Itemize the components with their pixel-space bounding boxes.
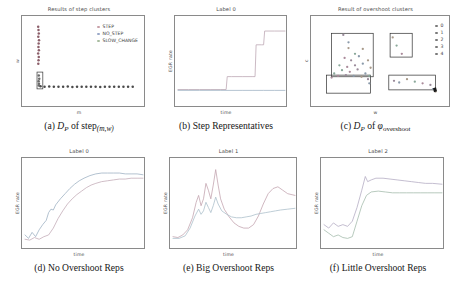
scatter-point	[38, 84, 41, 87]
scatter-point	[343, 57, 345, 59]
scatter-point	[421, 82, 423, 84]
legend-item-1[interactable]: NO_STEP	[97, 31, 138, 37]
scatter-point	[346, 66, 348, 68]
scatter-point	[90, 85, 93, 88]
panel-a-caption-mid: of step	[68, 120, 96, 131]
scatter-point	[349, 59, 351, 61]
legend-item-0[interactable]: 0	[435, 23, 444, 29]
scatter-point	[400, 53, 402, 55]
panel-e-plot: Label 1 EGR rate time	[161, 148, 297, 258]
legend-swatch-icon	[97, 33, 100, 36]
scatter-point	[37, 59, 40, 62]
panel-c-legend: 01234	[435, 23, 444, 57]
scatter-point	[330, 76, 332, 78]
legend-item-2[interactable]: 2	[435, 37, 444, 43]
scatter-point	[395, 44, 397, 46]
scatter-point	[71, 86, 74, 89]
scatter-point	[347, 47, 349, 49]
panel-c-caption-cal: D	[354, 120, 361, 131]
scatter-point	[333, 72, 335, 74]
panel-e-frame	[169, 157, 297, 249]
legend-item-0[interactable]: STEP	[97, 24, 138, 30]
panel-e-ylabel: EGR rate	[161, 157, 169, 249]
legend-swatch-icon	[435, 53, 438, 56]
scatter-point	[429, 84, 431, 86]
scatter-point	[38, 32, 41, 35]
panel-d-caption-prefix: (d)	[34, 262, 45, 273]
panel-b-xlabel: time	[166, 109, 287, 116]
scatter-point	[104, 85, 107, 88]
panel-f-frame	[320, 157, 444, 249]
panel-c-ylabel: c	[302, 15, 310, 107]
panel-e: Label 1 EGR rate time (e) Big Overshoot …	[155, 148, 303, 273]
scatter-point	[413, 81, 415, 83]
scatter-point	[118, 85, 121, 88]
legend-label: 1	[441, 30, 444, 36]
scatter-point	[344, 74, 346, 76]
scatter-point	[348, 71, 350, 73]
panel-b-axes: EGR rate	[166, 15, 287, 107]
scatter-point	[368, 75, 370, 77]
panel-a-ylabel: w	[13, 15, 21, 107]
scatter-point	[37, 25, 40, 28]
legend-label: SLOW_CHANGE	[103, 38, 138, 44]
scatter-point	[369, 67, 371, 69]
panel-c: Result of overshoot clusters c 01234 w (…	[298, 6, 453, 133]
legend-item-1[interactable]: 1	[435, 30, 444, 36]
series-line-0	[173, 170, 295, 238]
scatter-point	[38, 39, 41, 42]
scatter-point	[336, 75, 338, 77]
panel-b-caption: (b) Step Representatives	[179, 120, 273, 131]
scatter-point	[347, 41, 349, 43]
legend-item-2[interactable]: SLOW_CHANGE	[97, 38, 138, 44]
panel-a-xlabel: m	[13, 109, 145, 116]
scatter-point	[37, 46, 40, 49]
panel-f-title: Label 2	[312, 148, 444, 155]
panel-c-caption-prefix: (c)	[341, 120, 352, 131]
scatter-point	[38, 56, 41, 59]
panel-f-plot: Label 2 EGR rate time	[312, 148, 444, 258]
scatter-point	[361, 62, 363, 64]
scatter-point	[338, 64, 340, 66]
scatter-point	[360, 76, 362, 78]
cluster-box-1	[326, 75, 370, 93]
panel-d-ylabel: EGR rate	[13, 157, 21, 249]
scatter-point	[37, 52, 40, 55]
legend-item-3[interactable]: 3	[435, 44, 444, 50]
scatter-point	[366, 78, 368, 80]
panel-a: Results of step clusters w STEPNO_STEPSL…	[4, 6, 154, 133]
scatter-point	[38, 78, 41, 81]
series-line-0	[178, 31, 285, 89]
scatter-point	[364, 72, 366, 74]
scatter-point	[53, 86, 56, 89]
scatter-point	[85, 86, 88, 89]
panel-f-caption-text: Little Overshoot Reps	[342, 262, 427, 273]
panel-c-xlabel: w	[302, 109, 450, 116]
scatter-point	[43, 86, 46, 89]
panel-e-title: Label 1	[161, 148, 297, 155]
legend-swatch-icon	[435, 32, 438, 35]
scatter-point	[342, 34, 344, 36]
scatter-point	[131, 86, 134, 89]
panel-a-legend: STEPNO_STEPSLOW_CHANGE	[97, 24, 138, 44]
scatter-point	[405, 78, 407, 80]
panel-d-xlabel: time	[13, 251, 145, 258]
scatter-point	[67, 85, 70, 88]
legend-item-4[interactable]: 4	[435, 51, 444, 57]
panel-a-caption-sub: (m,w)	[97, 124, 114, 133]
panel-b-title: Label 0	[166, 6, 287, 13]
panel-e-axes: EGR rate	[161, 157, 297, 249]
legend-swatch-icon	[435, 46, 438, 49]
panel-b-frame	[174, 15, 287, 107]
panel-e-canvas	[170, 158, 297, 249]
panel-e-caption-prefix: (e)	[183, 262, 194, 273]
panel-c-caption: (c) DP of φovershoot	[341, 120, 411, 133]
panel-f-xlabel: time	[312, 251, 444, 258]
panel-f-ylabel: EGR rate	[312, 157, 320, 249]
scatter-point	[99, 86, 102, 89]
legend-label: STEP	[103, 24, 114, 30]
panel-a-frame: STEPNO_STEPSLOW_CHANGE	[21, 15, 145, 107]
scatter-point	[62, 86, 64, 89]
legend-swatch-icon	[435, 39, 438, 42]
series-line-1	[173, 197, 295, 238]
